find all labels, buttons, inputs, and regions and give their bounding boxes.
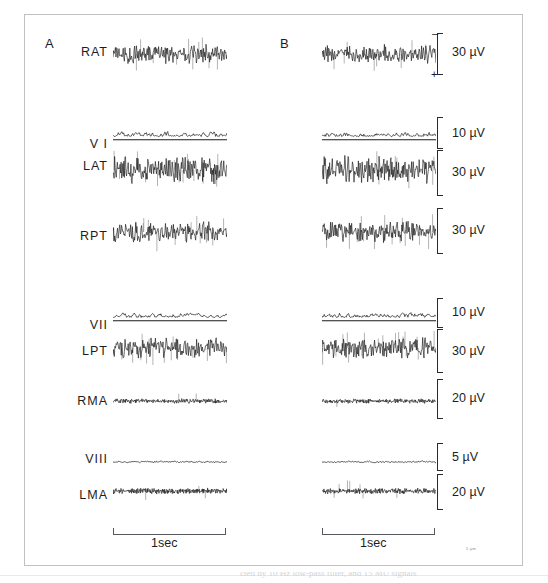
channel-label-vi: V I xyxy=(40,137,108,151)
channel-label-lpt: LPT xyxy=(40,344,108,358)
trace-rat-panel-b xyxy=(322,36,436,72)
scale-corner-mark: 5 µm xyxy=(466,546,476,551)
trace-lma-panel-a xyxy=(113,480,227,502)
time-scalebar-a-label: 1sec xyxy=(151,536,177,550)
trace-vi-panel-a xyxy=(113,119,227,141)
trace-lpt-panel-a xyxy=(113,330,227,366)
time-scalebar-a xyxy=(113,528,226,535)
calibration-label-rma: 20 µV xyxy=(452,391,485,405)
calibration-label-viii: 5 µV xyxy=(452,450,478,464)
calibration-label-lpt: 30 µV xyxy=(452,344,485,358)
figure-root: A B RAT30 µV–+V I10 µVLAT30 µVRPT30 µVVI… xyxy=(0,0,548,583)
trace-vii-panel-b xyxy=(322,300,436,322)
trace-viii-panel-b xyxy=(322,450,436,466)
panel-letter-b: B xyxy=(280,36,289,51)
trace-vii-panel-a xyxy=(113,300,227,322)
calibration-label-vii: 10 µV xyxy=(452,305,485,319)
calibration-label-rpt: 30 µV xyxy=(452,223,485,237)
trace-lma-panel-b xyxy=(322,480,436,502)
channel-label-rma: RMA xyxy=(40,394,108,408)
trace-rpt-panel-a xyxy=(113,212,227,252)
calibration-label-lma: 20 µV xyxy=(452,485,485,499)
calibration-bracket-rpt xyxy=(437,208,443,254)
trace-lat-panel-b xyxy=(322,150,436,190)
trace-rat-panel-a xyxy=(113,36,227,72)
time-scalebar-b-label: 1sec xyxy=(360,536,386,550)
trace-lpt-panel-b xyxy=(322,330,436,366)
channel-label-lma: LMA xyxy=(40,488,108,502)
calibration-bracket-lpt xyxy=(437,329,443,373)
channel-label-rpt: RPT xyxy=(40,229,108,243)
trace-viii-panel-a xyxy=(113,450,227,466)
figure-border xyxy=(24,14,523,566)
calibration-label-vi: 10 µV xyxy=(452,126,485,140)
channel-label-rat: RAT xyxy=(40,45,108,59)
calibration-label-lat: 30 µV xyxy=(452,165,485,179)
calibration-bracket-lat xyxy=(437,150,443,196)
caption-text: cted by 10 Hz low-pass filter, and 15 MU… xyxy=(240,572,417,578)
calibration-bracket-viii xyxy=(437,443,443,471)
calibration-label-rat: 30 µV xyxy=(452,45,485,59)
polarity-negative-marker: – xyxy=(432,28,438,39)
trace-rma-panel-b xyxy=(322,390,436,412)
channel-label-lat: LAT xyxy=(40,159,108,173)
time-scalebar-b xyxy=(322,528,435,535)
trace-rma-panel-a xyxy=(113,390,227,412)
trace-rpt-panel-b xyxy=(322,212,436,252)
calibration-bracket-rat xyxy=(437,33,443,75)
calibration-bracket-rma xyxy=(437,379,443,419)
trace-vi-panel-b xyxy=(322,119,436,141)
calibration-bracket-lma xyxy=(437,474,443,510)
trace-lat-panel-a xyxy=(113,150,227,190)
channel-label-viii: VIII xyxy=(40,452,108,466)
calibration-bracket-vi xyxy=(437,117,443,149)
caption-strip: cted by 10 Hz low-pass filter, and 15 MU… xyxy=(0,572,548,583)
calibration-bracket-vii xyxy=(437,298,443,328)
polarity-positive-marker: + xyxy=(431,69,437,80)
channel-label-vii: VII xyxy=(40,318,108,332)
